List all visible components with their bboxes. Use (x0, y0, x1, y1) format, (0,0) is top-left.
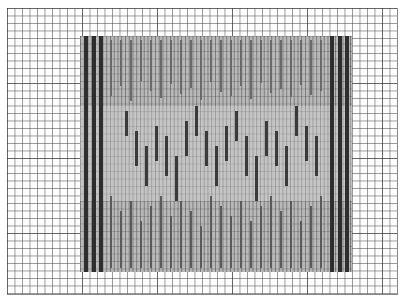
pattern-block (80, 36, 352, 272)
upper-bar (190, 40, 192, 88)
upper-bar (220, 40, 222, 92)
edge-column-left (99, 36, 103, 272)
upper-bar (260, 40, 262, 83)
upper-bar (140, 40, 142, 81)
upper-bar (320, 40, 322, 91)
upper-bar (170, 40, 172, 84)
lower-bar (150, 206, 152, 268)
interior-bar (275, 131, 278, 166)
upper-bar (120, 40, 122, 86)
interior-bar (175, 156, 178, 201)
lower-bar (250, 221, 252, 268)
edge-column-left (84, 36, 88, 272)
lower-bar (260, 206, 262, 268)
lower-bar (210, 196, 212, 268)
upper-bar (230, 40, 232, 96)
upper-bar (150, 40, 152, 91)
lower-bar (170, 216, 172, 268)
lower-bar (300, 221, 302, 268)
upper-bar (200, 40, 202, 100)
lower-bar (290, 201, 292, 268)
interior-bar (185, 121, 188, 156)
interior-bar (215, 146, 218, 186)
interior-bar (135, 131, 138, 166)
lower-bar (190, 211, 192, 268)
edge-column-left (92, 36, 96, 272)
lower-bar (230, 216, 232, 268)
interior-bar (205, 131, 208, 166)
interior-bar (305, 126, 308, 161)
lower-bar (270, 196, 272, 268)
upper-bar (300, 40, 302, 85)
lower-bar (130, 201, 132, 268)
interior-bar (315, 136, 318, 176)
upper-bar (270, 40, 272, 93)
upper-bar (280, 40, 282, 89)
lower-bar (220, 206, 222, 268)
upper-bar (180, 40, 182, 94)
upper-bar (110, 40, 112, 96)
upper-bar (290, 40, 292, 97)
interior-bar (265, 121, 268, 156)
interior-bar (285, 146, 288, 186)
lower-bar (240, 201, 242, 268)
upper-bar (160, 40, 162, 98)
interior-bar (195, 106, 198, 136)
upper-bar (130, 40, 132, 101)
lower-bar (160, 196, 162, 268)
interior-bar (145, 146, 148, 186)
interior-bar (225, 126, 228, 161)
lower-bar (120, 211, 122, 268)
lower-bar (310, 206, 312, 268)
upper-bar (250, 40, 252, 99)
interior-bar (155, 126, 158, 161)
lower-bar (280, 211, 282, 268)
lower-bar (140, 221, 142, 268)
interior-bar (165, 136, 168, 176)
edge-column-right (338, 36, 342, 272)
upper-bar (210, 40, 212, 82)
lower-bar (180, 201, 182, 268)
edge-column-right (330, 36, 334, 272)
interior-bar (125, 111, 128, 136)
interior-bar (245, 136, 248, 176)
interior-bar (295, 106, 298, 136)
lower-bar (110, 196, 112, 268)
interior-bar (235, 111, 238, 141)
upper-bar (310, 40, 312, 95)
upper-bar (240, 40, 242, 86)
interior-bar (255, 156, 258, 201)
lower-bar (320, 196, 322, 268)
lower-bar (200, 226, 202, 268)
edge-column-right (345, 36, 349, 272)
